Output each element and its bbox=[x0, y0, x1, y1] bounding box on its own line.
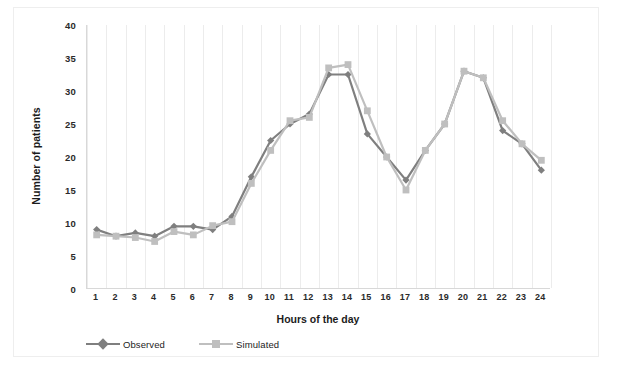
series-layer bbox=[87, 25, 551, 289]
data-point bbox=[132, 234, 139, 241]
x-tick-label: 4 bbox=[151, 292, 156, 302]
x-tick-label: 12 bbox=[303, 292, 313, 302]
x-tick-label: 3 bbox=[132, 292, 137, 302]
data-point bbox=[113, 233, 120, 240]
series-line bbox=[97, 71, 542, 236]
y-axis-ticks: 0510152025303540 bbox=[0, 25, 86, 289]
data-point bbox=[480, 74, 487, 81]
x-tick-label: 21 bbox=[477, 292, 487, 302]
x-tick-label: 2 bbox=[112, 292, 117, 302]
data-point bbox=[422, 147, 429, 154]
legend-item-simulated[interactable]: Simulated bbox=[199, 338, 279, 350]
chart-figure: Number of patients 0510152025303540 1234… bbox=[0, 0, 618, 377]
y-tick-label: 30 bbox=[65, 86, 76, 97]
x-tick-label: 7 bbox=[209, 292, 214, 302]
x-tick-label: 8 bbox=[228, 292, 233, 302]
y-tick-label: 40 bbox=[65, 20, 76, 31]
y-tick-label: 20 bbox=[65, 152, 76, 163]
x-axis-ticks: 123456789101112131415161718192021222324 bbox=[86, 292, 550, 310]
legend-label: Simulated bbox=[236, 339, 279, 350]
gridline bbox=[551, 25, 552, 288]
legend-swatch-diamond-icon bbox=[86, 338, 120, 350]
data-point bbox=[267, 147, 274, 154]
data-point bbox=[519, 140, 526, 147]
data-point bbox=[229, 218, 236, 225]
y-tick-label: 15 bbox=[65, 185, 76, 196]
x-tick-label: 14 bbox=[342, 292, 352, 302]
y-tick-label: 5 bbox=[71, 251, 76, 262]
data-point bbox=[461, 68, 468, 75]
y-tick-label: 0 bbox=[71, 284, 76, 295]
x-tick-label: 13 bbox=[322, 292, 332, 302]
data-point bbox=[287, 117, 294, 124]
x-tick-label: 6 bbox=[190, 292, 195, 302]
plot-area bbox=[86, 25, 550, 289]
data-point bbox=[190, 223, 197, 230]
chart-legend: ObservedSimulated bbox=[86, 336, 386, 352]
x-tick-label: 5 bbox=[170, 292, 175, 302]
data-point bbox=[383, 154, 390, 161]
x-tick-label: 18 bbox=[419, 292, 429, 302]
x-tick-label: 22 bbox=[496, 292, 506, 302]
x-tick-label: 1 bbox=[93, 292, 98, 302]
y-tick-label: 10 bbox=[65, 218, 76, 229]
data-point bbox=[345, 61, 352, 68]
data-point bbox=[171, 228, 178, 235]
x-tick-label: 24 bbox=[535, 292, 545, 302]
x-tick-label: 10 bbox=[264, 292, 274, 302]
x-tick-label: 15 bbox=[361, 292, 371, 302]
legend-swatch-square-icon bbox=[199, 338, 233, 350]
y-tick-label: 25 bbox=[65, 119, 76, 130]
series-simulated bbox=[93, 61, 544, 245]
x-axis-label: Hours of the day bbox=[86, 313, 550, 325]
data-point bbox=[403, 187, 410, 194]
y-tick-label: 35 bbox=[65, 53, 76, 64]
x-tick-label: 19 bbox=[438, 292, 448, 302]
x-tick-label: 17 bbox=[400, 292, 410, 302]
data-point bbox=[93, 231, 100, 238]
legend-label: Observed bbox=[123, 339, 165, 350]
x-tick-label: 23 bbox=[516, 292, 526, 302]
legend-item-observed[interactable]: Observed bbox=[86, 338, 165, 350]
x-tick-label: 9 bbox=[248, 292, 253, 302]
data-point bbox=[248, 180, 255, 187]
x-tick-label: 20 bbox=[458, 292, 468, 302]
data-point bbox=[190, 231, 197, 238]
data-point bbox=[151, 238, 158, 245]
data-point bbox=[441, 121, 448, 128]
data-point bbox=[306, 114, 313, 121]
series-line bbox=[97, 65, 542, 242]
data-point bbox=[325, 65, 332, 72]
data-point bbox=[209, 222, 216, 229]
data-point bbox=[538, 157, 545, 164]
data-point bbox=[364, 107, 371, 114]
data-point bbox=[499, 117, 506, 124]
x-tick-label: 11 bbox=[284, 292, 294, 302]
x-tick-label: 16 bbox=[380, 292, 390, 302]
